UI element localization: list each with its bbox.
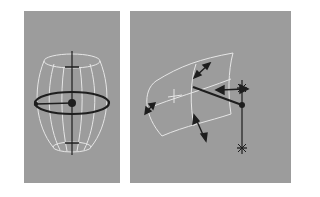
arrow-right-icon xyxy=(216,85,248,94)
surface-patch-wireframe xyxy=(147,53,233,136)
ring-handle-icon xyxy=(34,102,38,106)
pivot-handle-icon xyxy=(239,102,245,108)
barrel-manipulator-illustration xyxy=(24,11,120,183)
surface-manipulator-illustration xyxy=(130,11,291,183)
radius-handle xyxy=(36,103,72,104)
right-panel-surface-manipulator xyxy=(130,11,291,183)
left-panel-barrel-manipulator xyxy=(24,11,120,183)
center-pivot-icon xyxy=(68,99,76,107)
arrow-bottom-icon xyxy=(193,115,207,141)
arrow-top-icon xyxy=(194,63,210,78)
